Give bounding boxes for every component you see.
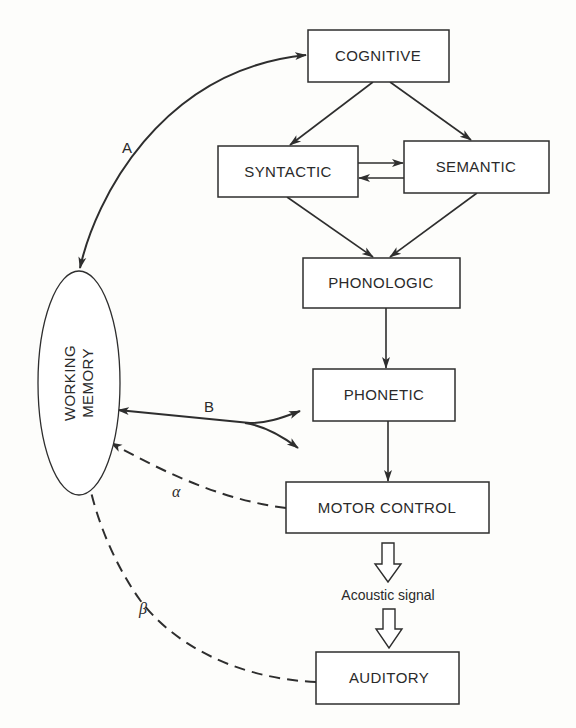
syntactic-label: SYNTACTIC — [244, 163, 332, 180]
edge-b-memory-branch — [118, 410, 250, 423]
node-syntactic: SYNTACTIC — [218, 146, 358, 197]
hollow-arrow-down-icon — [375, 543, 401, 582]
cognitive-label: COGNITIVE — [335, 47, 421, 64]
phonologic-label: PHONOLOGIC — [328, 274, 434, 291]
edge-cognitive-syntactic — [290, 82, 373, 145]
node-working-memory: WORKING MEMORY — [38, 271, 120, 495]
semantic-label: SEMANTIC — [436, 158, 517, 175]
edge-label-alpha: α — [172, 483, 181, 500]
node-phonetic: PHONETIC — [313, 369, 455, 421]
edge-label-b: B — [204, 398, 214, 415]
hollow-arrow-down-icon — [376, 609, 402, 648]
edge-label-a: A — [122, 139, 132, 156]
edge-cognitive-semantic — [390, 82, 471, 140]
node-semantic: SEMANTIC — [404, 141, 549, 193]
edge-semantic-phonologic — [390, 193, 477, 257]
motor-control-label: MOTOR CONTROL — [318, 499, 456, 516]
auditory-label: AUDITORY — [349, 669, 429, 686]
working-memory-label-line1: WORKING — [61, 345, 78, 421]
node-motor-control: MOTOR CONTROL — [286, 482, 489, 533]
node-phonologic: PHONOLOGIC — [303, 258, 460, 308]
edge-label-beta: β — [138, 600, 147, 618]
edge-syntactic-phonologic — [287, 197, 373, 257]
speech-production-diagram: A B α β WORKING MEMORY COGNITIVE SYNTA — [0, 0, 576, 728]
edge-b-branch-upper — [245, 411, 300, 423]
working-memory-label-line2: MEMORY — [79, 348, 96, 418]
edge-beta-auditory-memory — [88, 478, 316, 682]
phonetic-label: PHONETIC — [344, 386, 425, 403]
acoustic-signal-label: Acoustic signal — [341, 587, 434, 603]
edge-alpha-motor-memory — [111, 443, 286, 508]
node-auditory: AUDITORY — [316, 652, 459, 704]
node-cognitive: COGNITIVE — [308, 30, 449, 82]
edge-b-branch-lower — [245, 423, 298, 448]
